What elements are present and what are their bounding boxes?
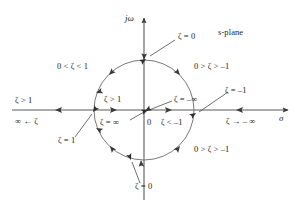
annotation-bottom-zeta-zero: ζ = 0	[135, 182, 152, 191]
annotation-upper-right-quadrant: 0 > ζ > –1	[194, 62, 229, 71]
annotation-top-zeta-zero: ζ = 0	[178, 32, 195, 41]
leader-zeta-plus-infinity	[130, 112, 144, 120]
annotation-lower-right-quadrant: 0 > ζ > –1	[194, 145, 229, 154]
leader-zeta-equals-one	[75, 114, 92, 137]
annotation-zeta-equals-one: ζ = 1	[58, 136, 75, 145]
circle-arrow-bottom	[138, 160, 144, 167]
leader-zeta-equals-minus-one	[199, 92, 228, 112]
annotation-zeta-equals-minus-one: ζ = –1	[225, 86, 247, 95]
leader-tip-zeta-one	[91, 105, 99, 113]
annotation-inner-right-above: ζ = –∞	[174, 95, 197, 104]
annotation-inner-left-above: ζ > 1	[104, 95, 121, 104]
circle-arrow-lower-right	[174, 144, 182, 153]
s-plane-diagram: jω σ s-plane ζ = 0 ζ = 0 0 < ζ < 1 0 > ζ…	[0, 0, 298, 213]
annotation-inner-right-below: ζ < –1	[161, 118, 183, 127]
annotation-left-axis-above: ζ > 1	[15, 96, 32, 105]
sigma-axis-label: σ	[279, 114, 284, 123]
annotation-left-axis-below: ∞ ← ζ	[15, 117, 38, 126]
annotation-inner-left-below: ζ = ∞	[100, 118, 119, 127]
annotation-upper-left-quadrant: 0 < ζ < 1	[57, 62, 88, 71]
annotation-right-axis-below: ζ → – ∞	[226, 117, 255, 126]
jomega-axis-label: jω	[125, 14, 134, 23]
origin-label: 0	[147, 118, 151, 127]
leader-bottom-zeta-zero	[132, 162, 140, 183]
leader-top-zeta-zero	[150, 40, 175, 56]
s-plane-label: s-plane	[218, 28, 243, 37]
